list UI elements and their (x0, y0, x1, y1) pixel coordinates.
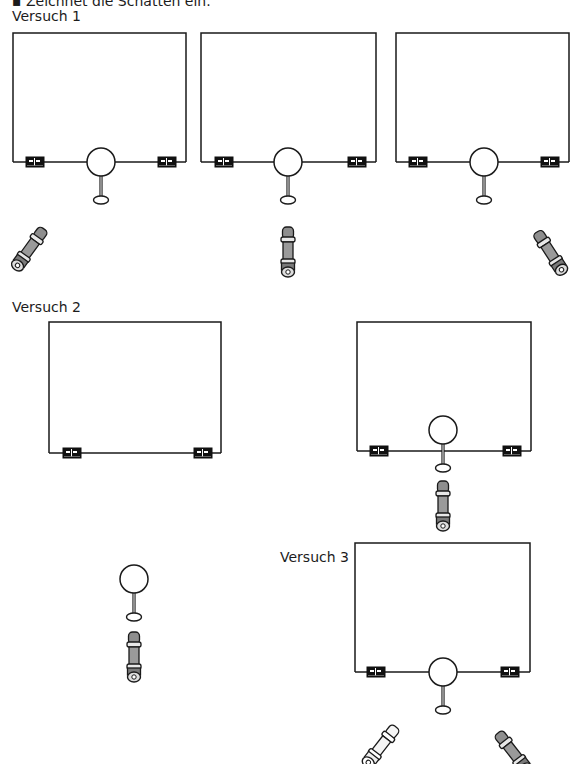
screen-circuit (49, 322, 221, 453)
clip-icon (348, 157, 366, 167)
flashlight-icon (531, 228, 570, 278)
experiment-2-setup-3 (120, 565, 148, 682)
flashlight-icon (492, 729, 534, 764)
flashlight-icon (436, 481, 450, 531)
clip-icon (63, 448, 81, 458)
ball-on-stand (429, 658, 457, 714)
clip-icon (503, 446, 521, 456)
ball-on-stand (274, 148, 302, 204)
ball-on-stand (429, 416, 457, 472)
experiment-2-setup-2 (357, 322, 531, 531)
experiment-2-setup-1 (49, 322, 221, 458)
ball-on-stand (87, 148, 115, 204)
experiment-1-setup-2 (201, 33, 376, 277)
flashlight-icon (9, 225, 50, 274)
screen-circuit (13, 33, 186, 162)
screen-circuit (396, 33, 569, 162)
clip-icon (194, 448, 212, 458)
flashlight-white-icon (360, 723, 402, 764)
experiment-1-setup-1 (9, 33, 186, 274)
clip-icon (541, 157, 559, 167)
clip-icon (367, 667, 385, 677)
clip-icon (501, 667, 519, 677)
clip-icon (158, 157, 176, 167)
experiment-1-setup-3 (396, 33, 570, 278)
clip-icon (215, 157, 233, 167)
clip-icon (409, 157, 427, 167)
screen-circuit (201, 33, 376, 162)
clip-icon (26, 157, 44, 167)
ball-on-stand (120, 565, 148, 621)
flashlight-icon (281, 227, 295, 277)
worksheet-diagram (0, 0, 570, 764)
clip-icon (370, 446, 388, 456)
ball-on-stand (470, 148, 498, 204)
flashlight-icon (127, 632, 141, 682)
experiment-3-setup-1 (355, 543, 534, 764)
screen-circuit (355, 543, 530, 672)
